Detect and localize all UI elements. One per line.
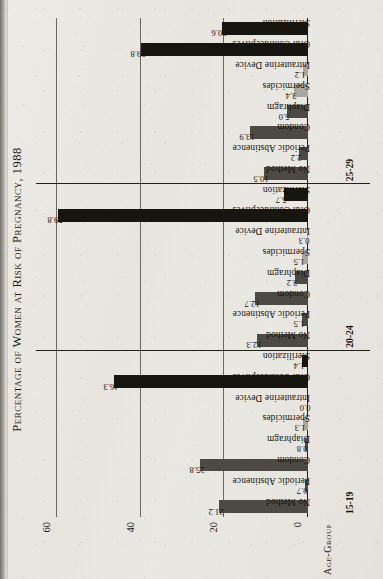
category-label-periodic-abstinence: Periodic Abstinence <box>233 476 310 486</box>
category-label-cell: Intrauterine Device <box>308 60 378 81</box>
bar-value-label: 1.5 <box>293 319 304 329</box>
category-label-cell: Intrauterine Device <box>308 226 378 247</box>
bar-value-label: 12.7 <box>244 299 259 309</box>
category-label-cell: Spermicides <box>308 80 378 101</box>
category-label-cell: Sterilization <box>308 18 378 39</box>
y-tick-label-20: 20 <box>208 522 219 533</box>
bar-value-label: 20.6 <box>211 28 226 38</box>
category-label-cell: Periodic Abstinence <box>308 309 378 330</box>
bar-value-label: 0.7 <box>297 486 308 496</box>
category-label-diaphragm: Diaphragm <box>267 434 310 444</box>
bar-chart: Percentage of Women at Risk of Pregnancy… <box>0 0 383 579</box>
category-group-25-29: No MethodPeriodic AbstinenceCondomDiaphr… <box>308 18 378 184</box>
category-label-cell: Oral Contraceptives <box>308 39 378 60</box>
category-label-intrauterine-device: Intrauterine Device <box>235 60 310 70</box>
category-label-cell: Condom <box>308 122 378 143</box>
category-label-cell: Spermicides <box>308 413 378 434</box>
category-label-oral-contraceptives: Oral Contraceptives <box>233 39 310 49</box>
chart-title: Percentage of Women at Risk of Pregnancy… <box>10 0 25 579</box>
category-label-condom: Condom <box>277 289 310 299</box>
category-label-oral-contraceptives: Oral Contraceptives <box>233 372 310 382</box>
category-label-cell: Periodic Abstinence <box>308 143 378 164</box>
category-label-no-method: No Method <box>266 164 310 174</box>
bar-value-label: 3.4 <box>285 91 296 101</box>
category-label-condom: Condom <box>277 455 310 465</box>
bar-value-label: 3.2 <box>286 278 297 288</box>
bar-value-label: 0.8 <box>296 444 307 454</box>
category-label-cell: Periodic Abstinence <box>308 475 378 496</box>
age-group-name-text: 20-24 <box>344 325 355 347</box>
age-group-labels: 15-1920-2425-29 <box>344 18 364 517</box>
bar-value-label: 1.2 <box>294 70 305 80</box>
category-label-intrauterine-device: Intrauterine Device <box>235 226 310 236</box>
bar-value-label: 39.8 <box>131 49 146 59</box>
y-tick-label-0: 0 <box>292 522 303 527</box>
category-label-cell: Intrauterine Device <box>308 392 378 413</box>
category-label-cell: Diaphragm <box>308 434 378 455</box>
category-label-periodic-abstinence: Periodic Abstinence <box>233 309 310 319</box>
category-label-cell: No Method <box>308 330 378 351</box>
category-label-cell: Diaphragm <box>308 101 378 122</box>
bar-value-label: 12.3 <box>246 340 261 350</box>
category-label-cell: No Method <box>308 164 378 185</box>
age-group-name-20-24: 20-24 <box>344 184 364 350</box>
category-label-intrauterine-device: Intrauterine Device <box>235 393 310 403</box>
age-group-name-text: 15-19 <box>344 492 355 514</box>
bar-cell: 12.7 <box>36 288 308 309</box>
bar-cell: 13.9 <box>36 122 308 143</box>
category-label-no-method: No Method <box>266 330 310 340</box>
y-tick-label-40: 40 <box>124 522 135 533</box>
category-group-20-24: No MethodPeriodic AbstinenceCondomDiaphr… <box>308 184 378 350</box>
age-group-name-15-19: 15-19 <box>344 351 364 517</box>
age-group-axis-title: Age-Group <box>322 524 333 575</box>
bar-value-label: 59.8 <box>47 216 62 226</box>
bar-value-label: 5.7 <box>276 195 287 205</box>
bar-value-label: 21.2 <box>209 507 224 517</box>
bar-value-label: 2.2 <box>290 153 301 163</box>
category-label-spermicides: Spermicides <box>262 81 310 91</box>
category-label-band: No MethodPeriodic AbstinenceCondomDiaphr… <box>308 18 378 517</box>
category-group-15-19: No MethodPeriodic AbstinenceCondomDiaphr… <box>308 351 378 517</box>
category-label-cell: Sterilization <box>308 351 378 372</box>
category-label-cell: Condom <box>308 288 378 309</box>
category-label-sterilization: Sterilization <box>263 351 310 361</box>
y-tick-label-60: 60 <box>40 522 51 533</box>
category-label-cell: Oral Contraceptives <box>308 371 378 392</box>
category-label-diaphragm: Diaphragm <box>267 102 310 112</box>
age-group-name-text: 25-29 <box>344 159 355 181</box>
bar-value-label: 25.8 <box>189 465 204 475</box>
category-label-diaphragm: Diaphragm <box>267 268 310 278</box>
bar-cell: 25.8 <box>36 455 308 476</box>
bar-value-label: 5.0 <box>279 112 290 122</box>
bar-value-label: 1.5 <box>293 257 304 267</box>
category-label-sterilization: Sterilization <box>263 185 310 195</box>
bar-value-label: 13.9 <box>239 132 254 142</box>
category-label-oral-contraceptives: Oral Contraceptives <box>233 206 310 216</box>
bar-value-label: 10.5 <box>253 174 268 184</box>
age-group-name-25-29: 25-29 <box>344 18 364 184</box>
category-label-cell: No Method <box>308 496 378 517</box>
category-label-cell: Diaphragm <box>308 267 378 288</box>
category-label-condom: Condom <box>277 122 310 132</box>
category-label-cell: Oral Contraceptives <box>308 205 378 226</box>
category-label-cell: Spermicides <box>308 247 378 268</box>
bar-value-label: 46.3 <box>104 382 119 392</box>
category-label-spermicides: Spermicides <box>262 413 310 423</box>
category-label-spermicides: Spermicides <box>262 247 310 257</box>
category-label-periodic-abstinence: Periodic Abstinence <box>233 143 310 153</box>
category-label-cell: Condom <box>308 455 378 476</box>
category-label-cell: Sterilization <box>308 184 378 205</box>
category-label-no-method: No Method <box>266 497 310 507</box>
bar-value-label: 1.3 <box>294 423 305 433</box>
category-label-sterilization: Sterilization <box>263 18 310 28</box>
rotated-figure: Percentage of Women at Risk of Pregnancy… <box>0 0 383 579</box>
bar-value-label: 1.4 <box>294 361 305 371</box>
